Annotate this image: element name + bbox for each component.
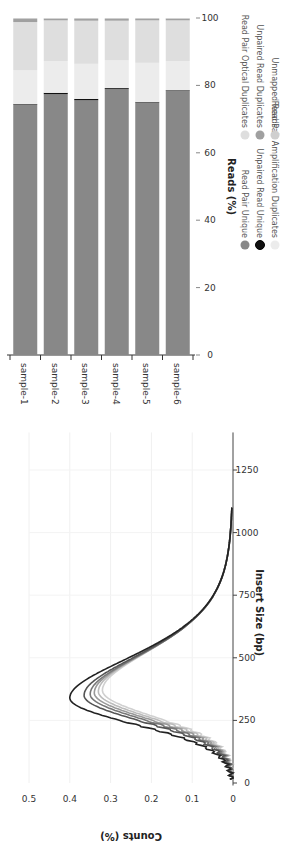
value-tick-label: 40 <box>204 215 216 225</box>
y-tick-label: 0.5 <box>22 794 36 804</box>
bar-segment <box>166 19 190 21</box>
legend-label: Read Pair Unique <box>240 170 249 238</box>
bar-segment <box>105 60 129 88</box>
reads-stacked-bar-chart: sample-1sample-2sample-3sample-4sample-5… <box>7 13 280 405</box>
bar-segment <box>166 18 190 19</box>
bar-segment <box>44 19 68 21</box>
bar-segment <box>135 20 159 62</box>
rotated-figure: sample-1sample-2sample-3sample-4sample-5… <box>0 0 282 843</box>
y-tick-label: 0.1 <box>185 794 199 804</box>
bar-segment <box>13 104 37 105</box>
bar-segment <box>13 70 37 104</box>
bar-y-axis-title: Reads (%) <box>226 158 237 215</box>
legend-label: Unpaired Read Duplicates <box>255 24 264 128</box>
bar-segment <box>74 64 98 99</box>
bar-segment <box>74 100 98 355</box>
bar-segment <box>105 18 129 19</box>
legend-marker <box>256 241 265 250</box>
y-axis-title: Counts (%) <box>100 831 162 842</box>
bar-segment <box>13 18 37 19</box>
bar-segment <box>105 88 129 89</box>
value-tick-label: 60 <box>204 148 216 158</box>
bar-segment <box>166 90 190 91</box>
category-label: sample-5 <box>141 363 151 405</box>
bar-segment <box>105 21 129 61</box>
legend-marker <box>241 131 250 140</box>
insert-size-line-chart: 02505007501000125000.10.20.30.40.5Insert… <box>22 432 265 842</box>
x-tick-label: 1000 <box>236 528 259 538</box>
bar-segment <box>166 61 190 90</box>
bar-segment <box>135 102 159 355</box>
bar-segment <box>44 94 68 355</box>
bar-segment <box>135 18 159 19</box>
legend-label: Unpaired Read Unique <box>255 148 264 238</box>
bar-segment <box>135 102 159 103</box>
y-tick-label: 0.4 <box>63 794 78 804</box>
legend-label: Read Pair Optical Duplicates <box>240 15 249 128</box>
bar-segment <box>13 19 37 22</box>
category-label: sample-2 <box>50 363 60 405</box>
bar-segment <box>44 18 68 19</box>
x-tick-label: 0 <box>244 778 250 788</box>
insert-size-curve <box>90 508 233 780</box>
bar-segment <box>74 99 98 100</box>
y-tick-label: 0.3 <box>103 794 117 804</box>
bar-segment <box>13 22 37 70</box>
bar-segment <box>44 61 68 93</box>
category-label: sample-6 <box>172 363 182 405</box>
category-label: sample-1 <box>19 363 29 405</box>
bar-segment <box>74 19 98 21</box>
y-tick-label: 0 <box>230 794 236 804</box>
bar-segment <box>135 19 159 20</box>
value-tick-label: 80 <box>204 80 216 90</box>
legend-label: Unmapped Reads <box>270 57 279 128</box>
insert-size-curve <box>102 508 233 780</box>
legend-marker <box>256 131 265 140</box>
y-tick-label: 0.2 <box>144 794 158 804</box>
bar-segment <box>44 93 68 94</box>
bar-segment <box>135 63 159 102</box>
bar-segment <box>13 104 37 355</box>
bar-segment <box>74 21 98 64</box>
x-axis-title: Insert Size (bp) <box>254 569 265 656</box>
x-tick-label: 250 <box>238 715 255 725</box>
category-label: sample-4 <box>111 363 121 405</box>
bar-segment <box>166 20 190 61</box>
legend-marker <box>271 131 280 140</box>
x-tick-label: 1250 <box>236 465 259 475</box>
value-tick-label: 20 <box>204 283 216 293</box>
category-label: sample-3 <box>80 363 90 405</box>
bar-segment <box>105 89 129 355</box>
insert-size-curve <box>94 508 233 780</box>
legend-marker <box>241 241 250 250</box>
bar-segment <box>74 18 98 19</box>
insert-size-curve <box>98 508 233 780</box>
value-tick-label: 0 <box>207 350 213 360</box>
legend-marker <box>271 241 280 250</box>
bar-segment <box>105 19 129 21</box>
bar-segment <box>44 20 68 61</box>
value-tick-label: 100 <box>201 13 218 23</box>
bar-segment <box>166 90 190 355</box>
